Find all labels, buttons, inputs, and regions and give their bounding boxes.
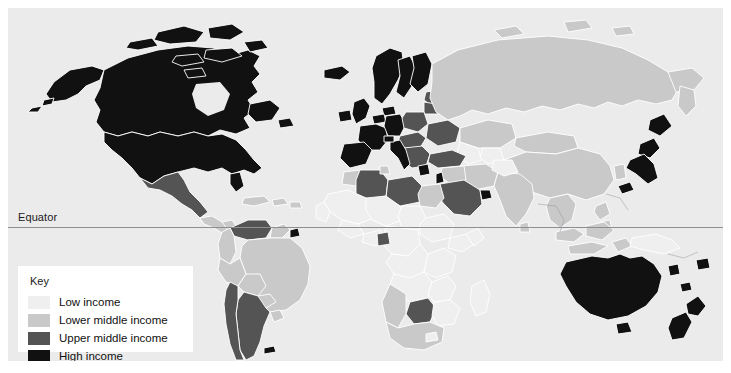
legend-swatch-low-income xyxy=(28,296,50,309)
legend-label-lower-middle-income: Lower middle income xyxy=(59,314,168,327)
legend-item-upper-middle-income: Upper middle income xyxy=(28,330,181,347)
legend-item-lower-middle-income: Lower middle income xyxy=(28,312,181,329)
legend-label-low-income: Low income xyxy=(59,296,120,309)
legend-label-upper-middle-income: Upper middle income xyxy=(59,332,168,345)
region-oceania xyxy=(560,254,710,340)
world-income-map-figure: .low { fill:#efefef; } .lmid { fill:#c9c… xyxy=(0,0,731,373)
legend-swatch-lower-middle-income xyxy=(28,314,50,327)
equator-label: Equator xyxy=(18,211,57,223)
legend-swatch-upper-middle-income xyxy=(28,332,50,345)
legend-label-high-income: High income xyxy=(59,350,123,361)
legend-item-high-income: High income xyxy=(28,348,181,361)
region-north-america xyxy=(28,24,302,234)
region-south-america xyxy=(218,220,310,360)
map-panel: .low { fill:#efefef; } .lmid { fill:#c9c… xyxy=(8,8,723,361)
map-legend: Key Low income Lower middle income Upper… xyxy=(18,266,193,352)
equator-line xyxy=(8,227,723,228)
legend-swatch-high-income xyxy=(28,350,50,361)
legend-item-low-income: Low income xyxy=(28,294,181,311)
region-asia xyxy=(428,20,704,254)
legend-title: Key xyxy=(30,275,181,287)
